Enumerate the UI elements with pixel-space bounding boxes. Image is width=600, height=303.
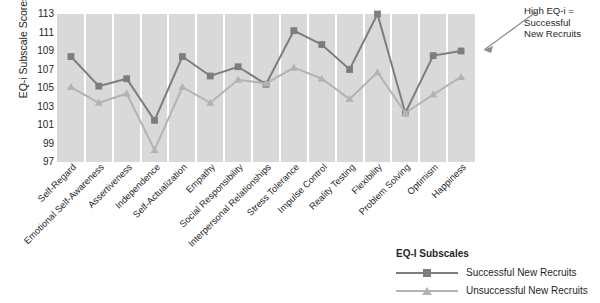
legend-title: EQ-I Subscales: [396, 248, 588, 259]
data-point-marker: [430, 52, 437, 59]
y-tick-101: 101: [37, 120, 54, 130]
chart-legend: EQ-I Subscales Successful New RecruitsUn…: [396, 248, 588, 301]
data-point-marker: [457, 73, 465, 80]
data-point-marker: [346, 66, 353, 73]
x-axis-tick-labels: Self-RegardEmotional Self-AwarenessAsser…: [57, 162, 475, 246]
plot-area: [57, 14, 475, 162]
data-point-marker: [207, 73, 214, 80]
annotation-text: High EQ-i = Successful New Recruits: [524, 5, 581, 40]
data-point-marker: [68, 53, 75, 60]
data-point-marker: [151, 146, 159, 153]
data-point-marker: [123, 75, 130, 82]
data-point-marker: [123, 90, 131, 97]
y-tick-109: 109: [37, 46, 54, 56]
data-point-marker: [458, 48, 465, 55]
data-point-marker: [429, 90, 437, 97]
legend-entry-0[interactable]: Successful New Recruits: [396, 265, 588, 280]
data-point-marker: [95, 83, 102, 90]
data-point-marker: [179, 53, 186, 60]
y-tick-99: 99: [43, 139, 54, 149]
legend-label: Successful New Recruits: [458, 267, 577, 278]
data-point-marker: [374, 11, 381, 18]
legend-key-icon: [396, 267, 458, 279]
data-point-marker: [318, 41, 325, 48]
y-tick-97: 97: [43, 157, 54, 167]
legend-entry-1[interactable]: Unsuccessful New Recruits: [396, 283, 588, 298]
y-tick-107: 107: [37, 65, 54, 75]
series-line-0: [71, 14, 461, 120]
data-point-marker: [151, 117, 158, 124]
data-point-marker: [67, 83, 75, 90]
y-tick-103: 103: [37, 102, 54, 112]
series-lines: [57, 14, 475, 162]
data-point-marker: [290, 64, 298, 71]
data-point-marker: [373, 68, 381, 75]
y-tick-111: 111: [39, 28, 54, 38]
legend-key-icon: [396, 285, 458, 297]
data-point-marker: [235, 63, 242, 70]
y-tick-113: 113: [38, 9, 54, 19]
data-point-marker: [178, 83, 186, 90]
data-point-marker: [290, 27, 297, 34]
eqi-subscale-chart: EQ-i Subscale Scores 1131111091071051031…: [0, 0, 600, 303]
y-tick-105: 105: [37, 83, 54, 93]
y-axis-tick-labels: 1131111091071051031019997: [26, 8, 54, 160]
legend-label: Unsuccessful New Recruits: [458, 285, 588, 296]
